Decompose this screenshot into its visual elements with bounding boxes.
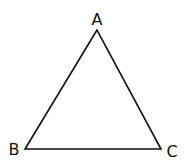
triangle-diagram: A B C	[0, 0, 187, 166]
vertex-label-c: C	[166, 142, 177, 161]
vertex-label-a: A	[92, 10, 103, 29]
triangle-abc	[25, 30, 161, 149]
vertex-label-b: B	[9, 140, 20, 159]
